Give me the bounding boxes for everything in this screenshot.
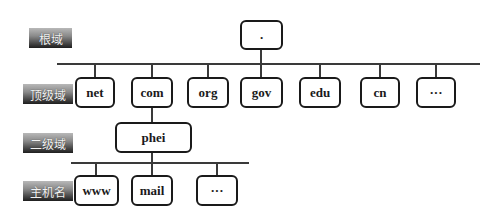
tld-node-cn: cn [360, 77, 400, 108]
connector-mail [151, 163, 153, 175]
second-level-node-phei: phei [115, 122, 192, 153]
connector-org [207, 64, 209, 77]
top-level-bus-line [57, 63, 480, 65]
host-node-www: www [74, 175, 119, 206]
connector-www [95, 163, 97, 175]
host-bus-line [71, 162, 249, 164]
connector-com [151, 64, 153, 77]
level-label-top-level-domain: 顶级域 [23, 84, 73, 104]
connector-gov [260, 64, 262, 77]
host-node-more: ··· [196, 175, 238, 206]
dns-hierarchy-diagram: 根域 顶级域 二级域 主机名 . net com org gov edu cn … [0, 0, 500, 224]
tld-node-more: ··· [416, 77, 456, 108]
connector-com-phei [151, 108, 153, 122]
tld-node-edu: edu [299, 77, 341, 108]
connector-net [94, 64, 96, 77]
tld-node-com: com [131, 77, 173, 108]
root-node: . [240, 20, 283, 50]
level-label-root-domain: 根域 [29, 28, 72, 48]
connector-cn [379, 64, 381, 77]
connector-edu [319, 64, 321, 77]
host-node-mail: mail [131, 175, 173, 206]
connector-more-host [216, 163, 218, 175]
root-connector [260, 50, 262, 64]
tld-node-org: org [187, 77, 229, 108]
connector-more-tld [435, 64, 437, 77]
level-label-second-level-domain: 二级域 [23, 133, 73, 153]
tld-node-net: net [75, 77, 115, 108]
tld-node-gov: gov [240, 77, 283, 108]
level-label-hostname: 主机名 [23, 181, 73, 201]
